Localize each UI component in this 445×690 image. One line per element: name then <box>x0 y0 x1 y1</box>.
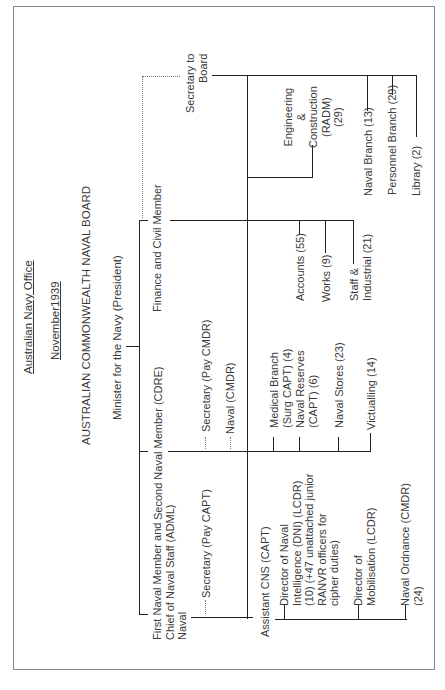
secretary-dotted-link <box>142 76 143 218</box>
second-secretary-label: Secretary (Pay CMDR) <box>200 320 213 432</box>
first-member-line <box>191 617 253 618</box>
works-label: Works (9) <box>320 255 333 302</box>
ordnance-label: Naval Ordnance (CMDR) (24) <box>399 483 424 606</box>
naval-branch-label: Naval Branch (13) <box>362 107 375 196</box>
second-secretary-dots <box>205 437 206 449</box>
first-secretary-dots <box>205 600 206 614</box>
finance-line <box>170 220 354 221</box>
stores-label: Naval Stores (23) <box>333 342 346 428</box>
secretary-board-line <box>212 75 417 76</box>
minister-connector <box>126 346 140 347</box>
medical-stem <box>273 437 274 451</box>
works-stem <box>325 220 326 253</box>
mobilisation-stem <box>358 604 359 619</box>
bracket-tick-first <box>139 614 148 615</box>
acns-line <box>275 619 407 620</box>
engineering-label: Engineering & Construction (RADM) (29) <box>282 86 345 148</box>
bracket-tick-finance <box>139 220 148 221</box>
second-naval-label: Naval (CMDR) <box>224 363 237 435</box>
office-title: Australian Navy Office <box>22 260 35 374</box>
dni-label: Director of Naval Intelligence (DNI) (LC… <box>278 474 341 606</box>
second-member-line <box>168 451 371 452</box>
first-member-label: First Naval Member and Chief of Naval St… <box>151 504 189 640</box>
naval-branch-stem <box>367 75 368 111</box>
finance-member-label: Finance and Civil Member <box>151 184 164 312</box>
accounts-label: Accounts (55) <box>294 233 307 301</box>
victualling-stem <box>370 433 371 451</box>
dni-stem <box>284 604 285 619</box>
main-trunk <box>247 75 248 619</box>
minister-title: Minister for the Navy (President) <box>111 255 124 420</box>
members-bracket <box>139 220 140 614</box>
first-secretary-label: Secretary (Pay CAPT) <box>200 489 213 598</box>
date-title: November1939 <box>49 281 62 360</box>
staff-industrial-label: Staff & Industrial (21) <box>348 234 373 301</box>
victualling-label: Victualling (14) <box>365 357 378 430</box>
engineering-line <box>247 177 313 178</box>
second-naval-dots <box>230 437 231 449</box>
acns-label: Assistant CNS (CAPT) <box>259 526 272 637</box>
secretary-board-label: Secretary to Board <box>184 54 209 113</box>
personnel-label: Personnel Branch (29) <box>386 85 399 195</box>
reserves-label: Naval Reserves (CAPT) (6) <box>294 350 319 428</box>
reserves-stem <box>299 437 300 451</box>
second-member-label: Second Naval Member (CDRE) <box>152 367 165 520</box>
org-chart: Australian Navy Office November1939 AUST… <box>0 0 445 690</box>
secretary-dotted-link-h <box>142 76 180 77</box>
mobilisation-label: Director of Mobilisation (LCDR) <box>352 508 377 606</box>
bracket-tick-second <box>139 451 148 452</box>
library-stem <box>416 75 417 137</box>
stores-stem <box>338 437 339 451</box>
medical-label: Medical Branch (Surg CAPT) (4) <box>268 349 293 428</box>
ordnance-stem <box>405 604 406 619</box>
board-title: AUSTRALIAN COMMONWEALTH NAVAL BOARD <box>80 186 93 445</box>
library-label: Library (2) <box>410 146 423 196</box>
engineering-stem <box>312 145 313 177</box>
